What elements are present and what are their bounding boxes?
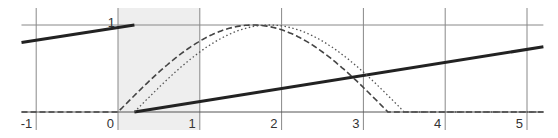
x-tick-label: 5 bbox=[516, 116, 523, 131]
x-tick-label: 3 bbox=[352, 116, 359, 131]
series-group bbox=[22, 25, 544, 112]
x-tick-label: -1 bbox=[21, 116, 33, 131]
x-tick-label: 1 bbox=[189, 116, 196, 131]
y-tick-label: 1 bbox=[108, 15, 115, 30]
dashed-curve bbox=[22, 25, 544, 112]
plot-area: -10123451 bbox=[0, 0, 558, 138]
solid-segment-left bbox=[22, 25, 135, 42]
x-tick-label: 2 bbox=[270, 116, 277, 131]
x-tick-label: 0 bbox=[107, 116, 114, 131]
x-tick-label: 4 bbox=[434, 116, 441, 131]
